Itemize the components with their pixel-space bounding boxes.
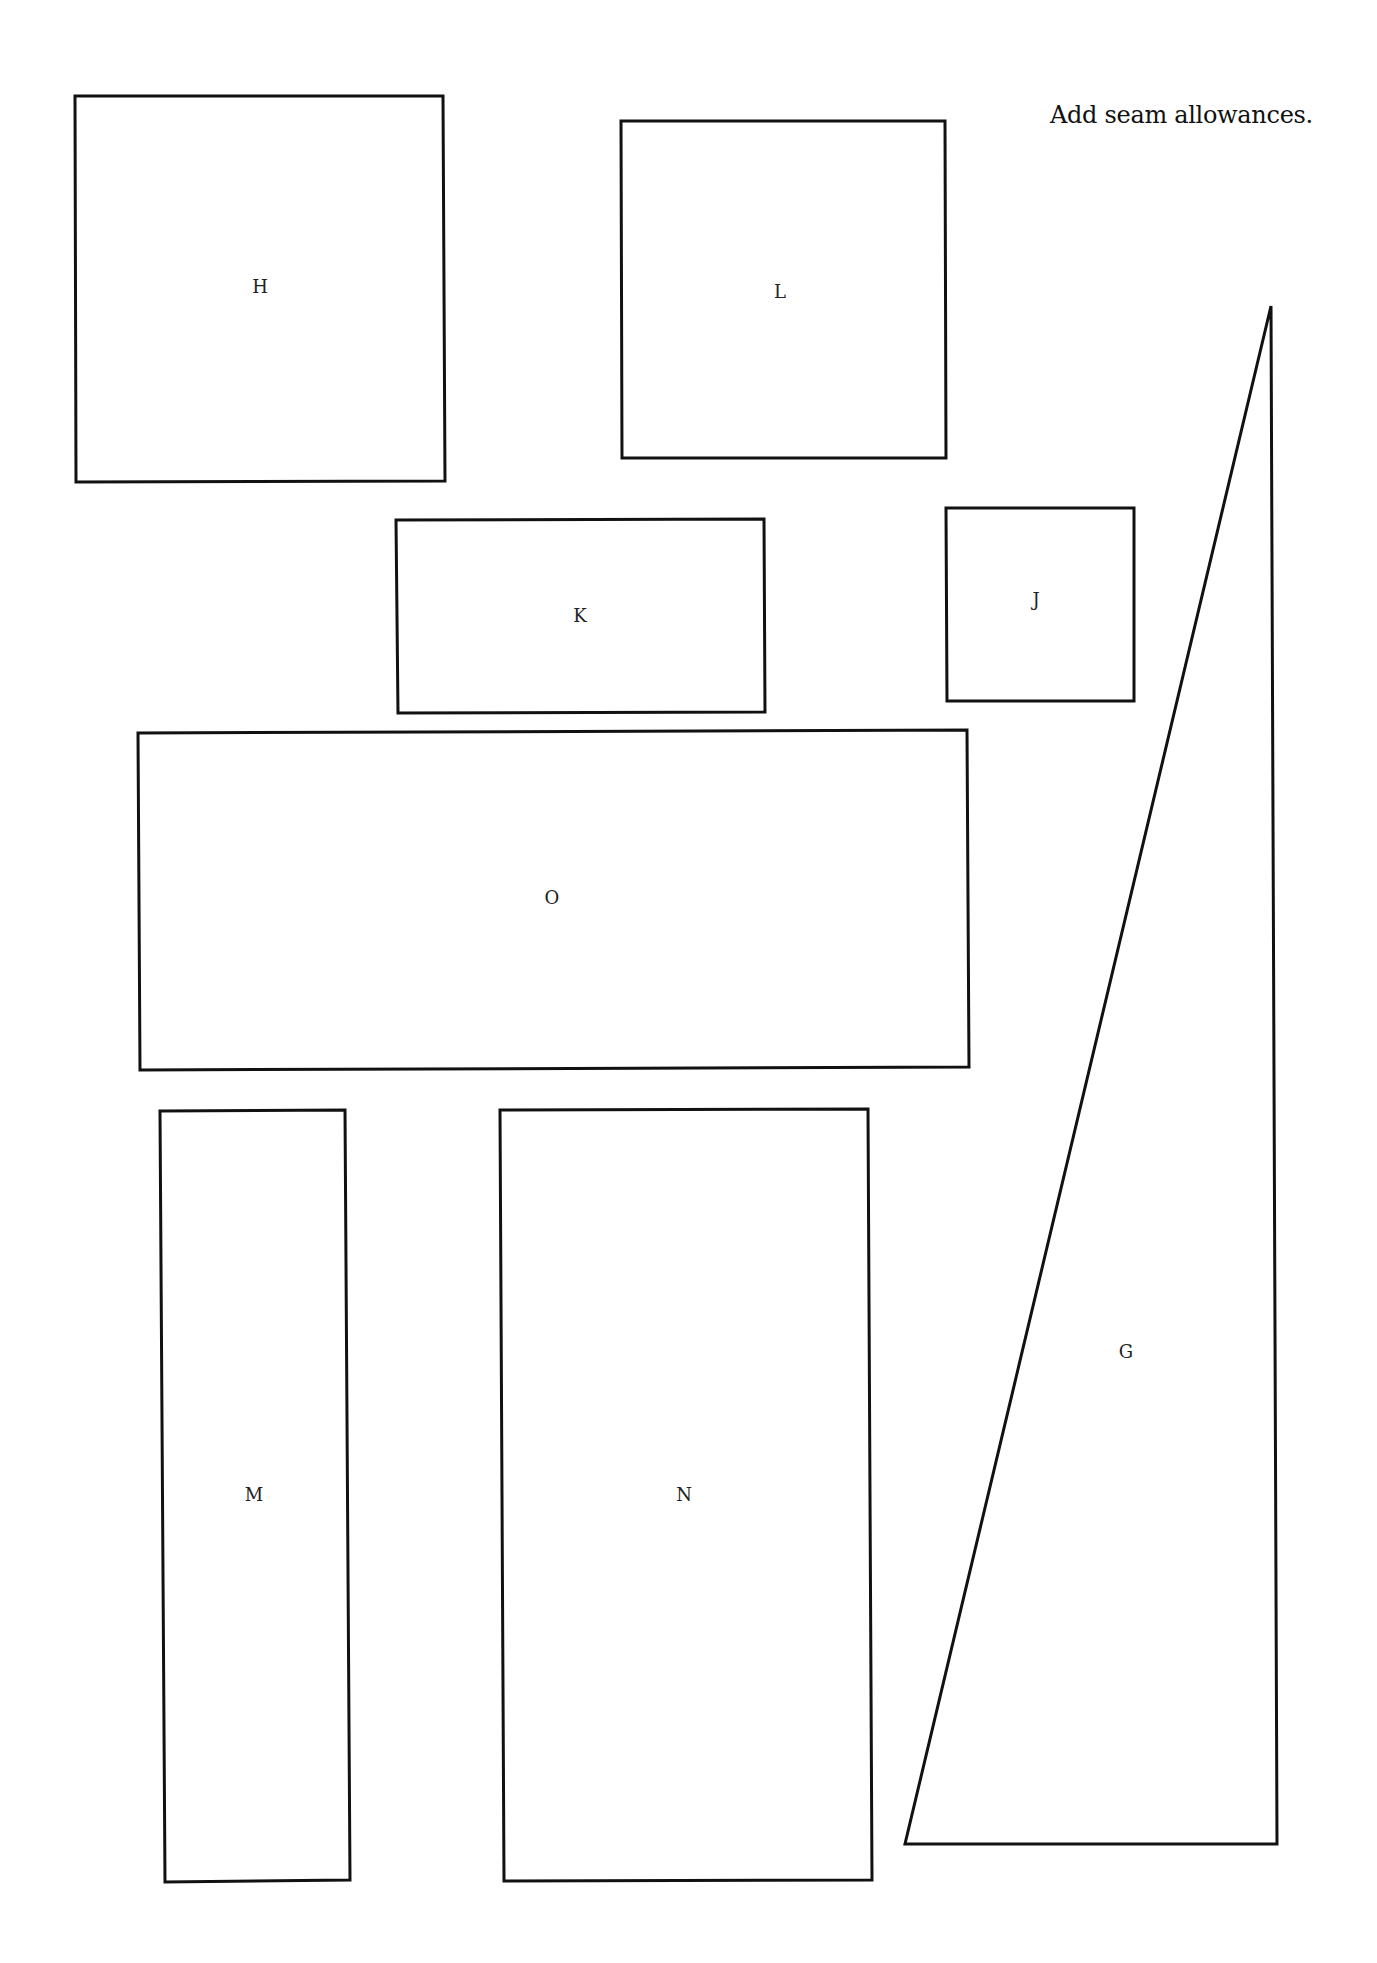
pattern-piece-h: H (75, 96, 445, 482)
pattern-sheet: H L K J O M N G (0, 0, 1377, 1963)
pattern-piece-o: O (138, 730, 969, 1070)
pattern-piece-l: L (621, 121, 946, 458)
piece-label-n: N (676, 1484, 692, 1505)
pattern-piece-n: N (500, 1109, 872, 1881)
piece-label-m: M (245, 1484, 263, 1505)
piece-label-l: L (774, 281, 786, 302)
pattern-piece-m: M (160, 1110, 350, 1882)
piece-label-k: K (573, 605, 587, 626)
piece-label-o: O (545, 887, 560, 908)
pattern-piece-g: G (905, 306, 1277, 1844)
piece-label-h: H (252, 276, 268, 297)
piece-label-g: G (1119, 1341, 1133, 1362)
pattern-piece-j: J (946, 508, 1134, 701)
piece-label-j: J (1030, 589, 1039, 610)
pattern-piece-k: K (396, 519, 765, 713)
